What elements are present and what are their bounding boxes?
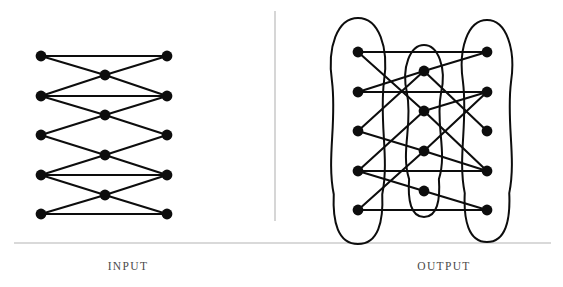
graph-node <box>353 166 364 177</box>
graph-node <box>36 51 47 62</box>
graph-node <box>482 205 493 216</box>
graph-node <box>419 186 430 197</box>
graph-node <box>100 70 111 81</box>
graph-node <box>353 47 364 58</box>
graph-node <box>353 87 364 98</box>
graph-node <box>353 205 364 216</box>
graph-node <box>162 170 173 181</box>
graph-node <box>353 126 364 137</box>
graph-node <box>100 150 111 161</box>
graph-node <box>100 190 111 201</box>
graph-node <box>36 170 47 181</box>
graph-node <box>419 146 430 157</box>
graph-node <box>100 110 111 121</box>
graph-node <box>36 91 47 102</box>
graph-node <box>482 47 493 58</box>
graph-node <box>162 91 173 102</box>
output-caption: OUTPUT <box>417 260 470 272</box>
graph-node <box>162 51 173 62</box>
graph-node <box>419 106 430 117</box>
figure-background <box>0 0 563 287</box>
graph-node <box>162 209 173 220</box>
figure-canvas: INPUT OUTPUT <box>0 0 563 287</box>
graph-node <box>419 66 430 77</box>
input-caption: INPUT <box>108 260 149 272</box>
graph-node <box>36 130 47 141</box>
graph-node <box>162 130 173 141</box>
graph-node <box>482 87 493 98</box>
graph-node <box>482 126 493 137</box>
figure-root: INPUT OUTPUT <box>0 0 563 287</box>
graph-node <box>36 209 47 220</box>
graph-node <box>482 166 493 177</box>
